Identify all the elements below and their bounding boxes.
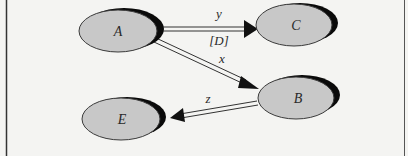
edge-b-to-e: z [170,91,258,122]
edge-label-d: [D] [209,33,229,48]
diagram-canvas: y [D] x z A C B E [0,0,408,156]
edge-a-to-b: x [154,38,259,89]
edge-label-x: x [218,51,225,66]
arrowhead-icon [170,108,185,122]
node-c: C [256,3,338,46]
edge-label-y: y [214,6,222,21]
node-b: B [258,75,340,119]
arrowhead-icon [238,76,259,89]
node-label-b: B [294,91,303,106]
edge-a-to-c: y [D] [160,6,258,48]
node-e: E [82,97,166,140]
node-label-e: E [117,112,127,127]
node-a: A [79,8,164,52]
node-label-a: A [113,24,123,39]
node-label-c: C [291,18,301,33]
edge-label-z: z [204,91,210,106]
